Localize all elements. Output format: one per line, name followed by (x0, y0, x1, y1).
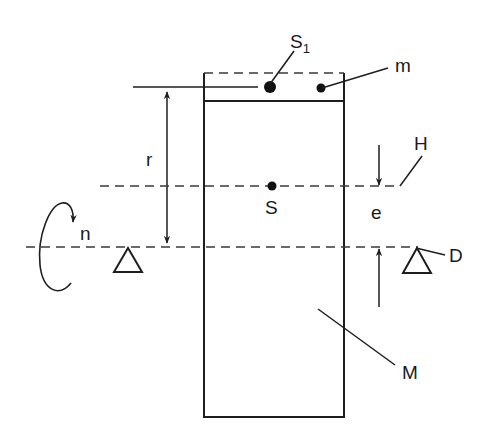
label-d: D (449, 245, 463, 266)
m-leader-line (322, 68, 388, 88)
label-h: H (414, 133, 428, 154)
rotor-diagram: S1 m r H S e D n M (0, 0, 492, 443)
label-m: m (395, 55, 411, 76)
bearing-right (403, 248, 431, 273)
label-e: e (371, 202, 382, 223)
m-body-leader-line (318, 309, 395, 365)
label-n: n (80, 223, 91, 244)
label-s: S (265, 197, 278, 218)
bearing-left (114, 248, 142, 272)
point-s (268, 182, 277, 191)
h-leader-line (400, 156, 422, 186)
label-r: r (146, 149, 153, 170)
label-M: M (402, 362, 418, 383)
rotor-body (203, 73, 345, 417)
s1-leader-line (270, 51, 294, 84)
